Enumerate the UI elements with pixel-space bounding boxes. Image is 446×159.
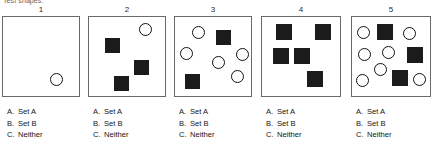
square-shape [392,70,408,86]
option-letter: C. [356,129,367,141]
answer-options: A.Set AB.Set BC.Neither [174,106,252,141]
square-shape [307,71,323,87]
circle-shape [382,46,395,59]
circle-shape [356,74,369,87]
option-label: Set B [190,118,209,130]
circle-shape [231,70,244,83]
test-shape-panel: 5A.Set AB.Set BC.Neither [351,5,431,141]
option-label: Set A [18,106,36,118]
circle-shape [139,23,152,36]
panel-number: 2 [88,5,166,15]
square-shape [185,74,200,89]
circle-shape [374,63,387,76]
answer-option[interactable]: C.Neither [93,129,166,141]
square-shape [105,38,120,53]
answer-options: A.Set AB.Set BC.Neither [261,106,341,141]
answer-options: A.Set AB.Set BC.Neither [351,106,431,141]
option-label: Neither [18,129,42,141]
option-letter: B. [7,118,18,130]
square-shape [407,47,423,63]
square-shape [216,30,231,45]
answer-option[interactable]: A.Set A [266,106,341,118]
answer-option[interactable]: A.Set A [356,106,431,118]
option-letter: A. [179,106,190,118]
answer-option[interactable]: A.Set A [179,106,252,118]
option-label: Set A [367,106,385,118]
answer-options: A.Set AB.Set BC.Neither [88,106,166,141]
option-letter: B. [179,118,190,130]
option-letter: A. [266,106,277,118]
answer-option[interactable]: C.Neither [266,129,341,141]
answer-option[interactable]: C.Neither [179,129,252,141]
option-label: Neither [104,129,128,141]
shape-canvas [351,16,431,97]
square-shape [294,48,310,64]
test-shape-panel: 2A.Set AB.Set BC.Neither [88,5,166,141]
square-shape [315,24,331,40]
square-shape [377,24,393,40]
answer-option[interactable]: C.Neither [356,129,431,141]
answer-option[interactable]: A.Set A [7,106,80,118]
test-shapes-worksheet: Test shapes: 1A.Set AB.Set BC.Neither2A.… [0,0,446,159]
panel-number: 5 [351,5,431,15]
option-letter: A. [93,106,104,118]
square-shape [273,48,289,64]
option-label: Set A [277,106,295,118]
circle-shape [192,26,205,39]
answer-option[interactable]: B.Set B [179,118,252,130]
square-shape [276,24,292,40]
circle-shape [413,73,426,86]
circle-shape [50,73,63,86]
square-shape [114,76,129,91]
panel-number: 1 [2,5,80,15]
option-label: Set B [367,118,386,130]
circle-shape [403,27,416,40]
option-letter: C. [7,129,18,141]
option-label: Set A [104,106,122,118]
answer-option[interactable]: B.Set B [266,118,341,130]
answer-option[interactable]: C.Neither [7,129,80,141]
shape-canvas [174,16,252,97]
answer-option[interactable]: A.Set A [93,106,166,118]
answer-option[interactable]: B.Set B [356,118,431,130]
answer-option[interactable]: B.Set B [93,118,166,130]
shape-canvas [261,16,341,97]
answer-options: A.Set AB.Set BC.Neither [2,106,80,141]
option-label: Set B [18,118,37,130]
panel-number: 3 [174,5,252,15]
circle-shape [212,56,225,69]
answer-option[interactable]: B.Set B [7,118,80,130]
option-letter: C. [93,129,104,141]
option-label: Set B [277,118,296,130]
circle-shape [357,26,370,39]
option-letter: B. [266,118,277,130]
test-shape-panel: 1A.Set AB.Set BC.Neither [2,5,80,141]
circle-shape [180,47,193,60]
option-letter: A. [7,106,18,118]
test-shape-panel: 3A.Set AB.Set BC.Neither [174,5,252,141]
option-label: Set A [190,106,208,118]
shape-canvas [88,16,166,97]
option-letter: C. [266,129,277,141]
circle-shape [358,48,371,61]
option-letter: B. [356,118,367,130]
option-label: Neither [277,129,301,141]
test-shape-panel: 4A.Set AB.Set BC.Neither [261,5,341,141]
option-label: Neither [367,129,391,141]
option-letter: C. [179,129,190,141]
panel-number: 4 [261,5,341,15]
option-letter: A. [356,106,367,118]
option-letter: B. [93,118,104,130]
shape-canvas [2,16,80,97]
option-label: Set B [104,118,123,130]
square-shape [134,60,149,75]
circle-shape [236,48,249,61]
option-label: Neither [190,129,214,141]
